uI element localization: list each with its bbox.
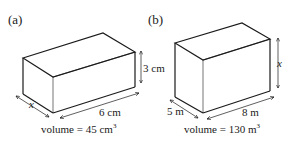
figure-label-b: (b) bbox=[148, 13, 163, 26]
cuboid-b bbox=[175, 23, 270, 113]
figure-label-a: (a) bbox=[8, 13, 22, 26]
height-label-a: 3 cm bbox=[143, 63, 165, 74]
dimension-arrows-a bbox=[16, 51, 141, 118]
width-label-a: x bbox=[29, 99, 34, 110]
cuboid-a bbox=[23, 33, 135, 113]
length-label-a: 6 cm bbox=[99, 107, 121, 118]
width-label-b: 5 m bbox=[167, 106, 184, 117]
length-label-b: 8 m bbox=[242, 107, 259, 118]
height-label-b: x bbox=[277, 58, 282, 69]
volume-label-b: volume = 130 m3 bbox=[184, 124, 260, 135]
volume-label-a: volume = 45 cm3 bbox=[41, 124, 116, 135]
